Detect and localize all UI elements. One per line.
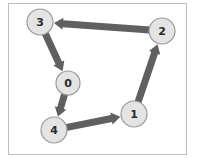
node-3: 3 — [27, 9, 53, 35]
node-2: 2 — [149, 18, 175, 44]
graph-diagram: 01234 — [0, 0, 199, 163]
node-label: 1 — [130, 108, 138, 121]
node-label: 0 — [64, 77, 72, 90]
node-4: 4 — [41, 117, 67, 143]
node-0: 0 — [56, 71, 80, 95]
node-label: 2 — [158, 25, 166, 38]
node-label: 4 — [50, 124, 58, 137]
node-label: 3 — [36, 16, 44, 29]
node-1: 1 — [121, 101, 147, 127]
